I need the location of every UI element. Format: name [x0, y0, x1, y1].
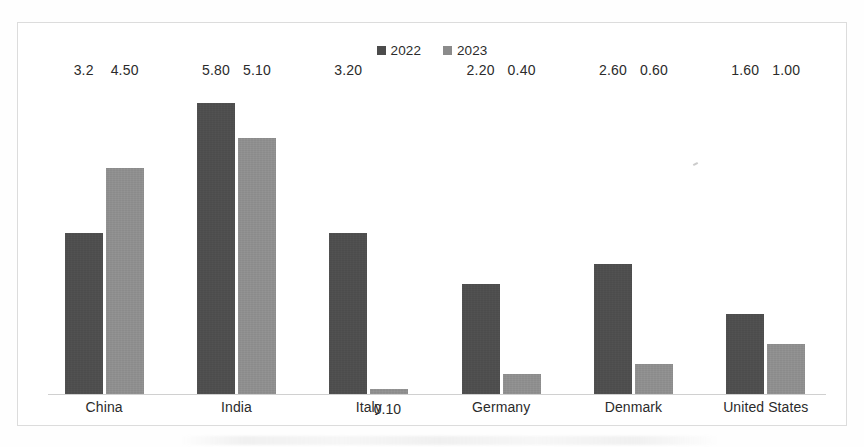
bar-value-china-2023: 4.50: [111, 62, 139, 78]
bar-wrap-china-2022: 3.2: [65, 83, 103, 394]
bar-value-germany-2022: 2.20: [467, 62, 495, 78]
legend-label-2022: 2022: [391, 43, 421, 58]
bar-wrap-denmark-2023: 0.60: [635, 83, 673, 394]
legend-item-2023[interactable]: 2023: [443, 43, 487, 58]
bar-value-germany-2023: 0.40: [508, 62, 536, 78]
x-axis-category-labels: China India Italy Germany Denmark United…: [38, 399, 832, 415]
bar-group-germany: 2.20 0.40: [435, 83, 567, 394]
bar-value-denmark-2023: 0.60: [640, 62, 668, 78]
legend-item-2022[interactable]: 2022: [377, 43, 421, 58]
bar-united-states-2022[interactable]: [726, 314, 764, 394]
legend-swatch-2023: [443, 46, 452, 55]
x-label-italy: Italy: [303, 399, 435, 415]
bar-group-denmark: 2.60 0.60: [567, 83, 699, 394]
bar-italy-2022[interactable]: [329, 233, 367, 394]
bar-india-2022[interactable]: [197, 103, 235, 394]
bar-group-india: 5.80 5.10: [170, 83, 302, 394]
bar-wrap-italy-2022: 3.20: [329, 83, 367, 394]
bar-italy-2023[interactable]: [370, 389, 408, 394]
bar-china-2022[interactable]: [65, 233, 103, 394]
x-label-china: China: [38, 399, 170, 415]
bar-wrap-germany-2022: 2.20: [462, 83, 500, 394]
bar-wrap-china-2023: 4.50: [106, 83, 144, 394]
bar-value-denmark-2022: 2.60: [599, 62, 627, 78]
chart-frame: 2022 2023 3.2 4.50: [17, 22, 847, 426]
x-label-united-states: United States: [700, 399, 832, 415]
bar-value-india-2022: 5.80: [202, 62, 230, 78]
scan-smudge: [180, 436, 720, 445]
plot-area: 3.2 4.50 5.80 5.10: [38, 83, 832, 395]
legend-label-2023: 2023: [457, 43, 487, 58]
bar-group-italy: 3.20: [303, 83, 435, 394]
bar-germany-2023[interactable]: [503, 374, 541, 394]
bar-value-italy-2022: 3.20: [334, 62, 362, 78]
bar-wrap-india-2023: 5.10: [238, 83, 276, 394]
bar-wrap-germany-2023: 0.40: [503, 83, 541, 394]
bar-denmark-2022[interactable]: [594, 264, 632, 394]
legend-swatch-2022: [377, 46, 386, 55]
bar-wrap-united-states-2023: 1.00: [767, 83, 805, 394]
chart-legend: 2022 2023: [18, 43, 846, 58]
x-axis-baseline: [48, 394, 826, 395]
x-label-germany: Germany: [435, 399, 567, 415]
bar-united-states-2023[interactable]: [767, 344, 805, 394]
bar-india-2023[interactable]: [238, 138, 276, 394]
bar-value-china-2022: 3.2: [74, 62, 94, 78]
bar-group-united-states: 1.60 1.00: [700, 83, 832, 394]
bar-wrap-denmark-2022: 2.60: [594, 83, 632, 394]
bar-group-china: 3.2 4.50: [38, 83, 170, 394]
scanned-page: 2022 2023 3.2 4.50: [0, 0, 864, 447]
bar-value-united-states-2023: 1.00: [772, 62, 800, 78]
bar-value-india-2023: 5.10: [243, 62, 271, 78]
bar-wrap-india-2022: 5.80: [197, 83, 235, 394]
bar-wrap-united-states-2022: 1.60: [726, 83, 764, 394]
bar-china-2023[interactable]: [106, 168, 144, 394]
x-label-india: India: [170, 399, 302, 415]
bar-wrap-italy-2023: [370, 83, 408, 394]
x-label-denmark: Denmark: [567, 399, 699, 415]
bar-denmark-2023[interactable]: [635, 364, 673, 394]
bar-value-italy-2023: 0.10: [374, 401, 401, 417]
bar-groups: 3.2 4.50 5.80 5.10: [38, 83, 832, 394]
bar-value-united-states-2022: 1.60: [731, 62, 759, 78]
bar-germany-2022[interactable]: [462, 284, 500, 394]
